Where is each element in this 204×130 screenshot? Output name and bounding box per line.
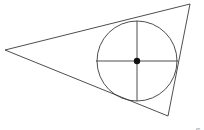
figure-background bbox=[0, 0, 204, 130]
center-point-dot bbox=[134, 58, 140, 64]
geometry-figure: Image: Gary Osborn bbox=[0, 0, 204, 130]
geometry-canvas bbox=[0, 0, 204, 130]
